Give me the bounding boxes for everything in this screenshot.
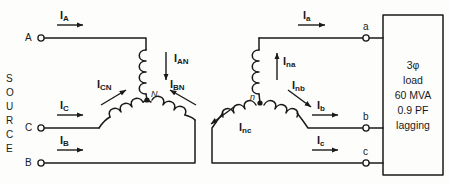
terminal-dot-B xyxy=(38,160,44,166)
current-label-I-c: Ic xyxy=(317,135,325,148)
current-label-I-na: Ina xyxy=(283,56,295,69)
neutral-label-n: n xyxy=(250,93,255,102)
current-label-I-CN: ICN xyxy=(97,79,112,92)
neutral-node-n xyxy=(257,100,262,105)
coil-nb xyxy=(264,101,298,117)
coil-bn xyxy=(152,96,186,115)
load-line-lagging: lagging xyxy=(383,118,443,133)
terminal-dot-C xyxy=(38,125,44,131)
current-label-I-b: Ib xyxy=(317,100,325,113)
terminal-label-b: b xyxy=(363,112,369,122)
arrow-I-nc xyxy=(211,107,234,124)
current-label-I-BN: IBN xyxy=(170,79,185,92)
neutral-node-N xyxy=(144,97,149,102)
circuit-diagram: S O U R C E A C B IA IC IB IAN IBN ICN N… xyxy=(0,0,450,184)
terminal-label-c: c xyxy=(363,147,368,157)
terminal-dot-a xyxy=(363,35,369,41)
current-label-I-A: IA xyxy=(60,10,69,23)
source-label-letter-c: C xyxy=(6,130,13,140)
coil-nc xyxy=(222,101,256,117)
terminal-label-C: C xyxy=(25,123,32,133)
current-label-I-B: IB xyxy=(60,135,69,148)
terminal-dot-b xyxy=(363,125,369,131)
source-label-letter-e: E xyxy=(6,144,13,154)
current-label-I-nb: Inb xyxy=(292,80,305,93)
current-label-I-nc: Inc xyxy=(239,122,251,135)
source-label-letter-s: S xyxy=(6,74,13,84)
current-label-I-a: Ia xyxy=(303,10,311,23)
coil-na xyxy=(252,50,259,94)
coil-an xyxy=(139,50,146,94)
source-label-letter-o: O xyxy=(6,88,14,98)
wire-phase-a-source xyxy=(44,38,146,50)
load-line-phases: 3φ xyxy=(383,58,443,73)
terminal-label-B: B xyxy=(25,158,32,168)
load-description: 3φ load 60 MVA 0.9 PF lagging xyxy=(383,58,443,133)
neutral-label-N: N xyxy=(151,90,158,99)
current-label-I-C: IC xyxy=(60,100,69,113)
wire-b-riser xyxy=(185,115,195,120)
terminal-dot-c xyxy=(363,160,369,166)
source-label-letter-u: U xyxy=(6,102,13,112)
arrow-I-CN xyxy=(101,90,126,105)
current-label-I-AN: IAN xyxy=(174,53,189,66)
wire-c-riser xyxy=(99,117,110,128)
terminal-label-A: A xyxy=(25,33,32,43)
load-line-rating: 60 MVA xyxy=(383,88,443,103)
load-line-power-factor: 0.9 PF xyxy=(383,103,443,118)
wire-phase-c-load xyxy=(212,113,364,163)
coil-cn xyxy=(109,98,143,117)
source-label-letter-r: R xyxy=(6,116,13,126)
load-line-type: load xyxy=(383,73,443,88)
terminal-dot-A xyxy=(38,35,44,41)
terminal-label-a: a xyxy=(363,22,369,32)
